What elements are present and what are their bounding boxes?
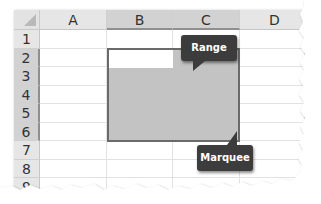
torn-edge-decoration xyxy=(0,0,321,204)
marquee-callout: Marquee xyxy=(197,145,253,171)
range-callout: Range xyxy=(181,35,237,61)
